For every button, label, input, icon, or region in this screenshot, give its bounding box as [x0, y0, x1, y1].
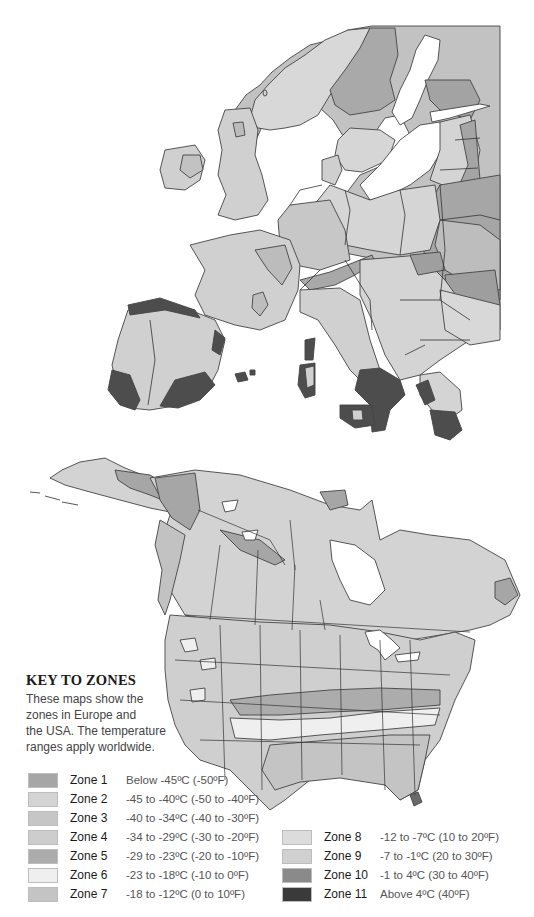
zone-range: -12 to -7ºC (10 to 20ºF) — [380, 831, 499, 843]
greece-south-dark — [430, 410, 462, 440]
zone-name: Zone 3 — [70, 811, 122, 825]
alaska-interior-dark — [115, 470, 190, 508]
great-slave-lake — [222, 500, 238, 512]
newfoundland — [495, 578, 518, 605]
balearic-islands — [235, 370, 255, 382]
key-title: KEY TO ZONES — [26, 672, 236, 689]
prairie-dark-band — [220, 530, 285, 565]
zone-range: -7 to -1ºC (20 to 30ºF) — [380, 850, 493, 862]
faroe-island — [263, 90, 267, 96]
usa-zone5-band — [230, 688, 440, 715]
legend-zone-5: Zone 5 -29 to -23ºC (-20 to -10ºF) — [28, 847, 259, 865]
zone-range: -34 to -29ºC (-30 to -20ºF) — [126, 831, 259, 843]
denmark — [322, 155, 342, 185]
key-desc-line: These maps show the — [26, 691, 236, 707]
alaska — [50, 458, 195, 520]
legend-zone-9: Zone 9 -7 to -1ºC (20 to 30ºF) — [282, 847, 493, 865]
zone-range: -18 to -12ºC (0 to 10ºF) — [126, 888, 245, 900]
zone-1-swatch — [28, 773, 58, 788]
zone-name: Zone 2 — [70, 792, 122, 806]
legend-zone-4: Zone 4 -34 to -29ºC (-30 to -20ºF) — [28, 828, 259, 846]
zone-name: Zone 8 — [324, 830, 376, 844]
canada — [150, 470, 520, 640]
zone-range: -23 to -18ºC (-10 to 0ºF) — [126, 869, 249, 881]
legend-zone-8: Zone 8 -12 to -7ºC (10 to 20ºF) — [282, 828, 499, 846]
zone-11-swatch — [282, 887, 312, 902]
zone-7-swatch — [28, 887, 58, 902]
florida-south-dark — [410, 792, 422, 806]
key-description: These maps show the zones in Europe and … — [26, 691, 236, 755]
zone-range: Above 4ºC (40ºF) — [380, 888, 470, 900]
zone-name: Zone 4 — [70, 830, 122, 844]
zone-name: Zone 11 — [324, 887, 376, 901]
zone-3-swatch — [28, 811, 58, 826]
legend-zone-6: Zone 6 -23 to -18ºC (-10 to 0ºF) — [28, 866, 249, 884]
bc-coast — [155, 520, 185, 615]
legend-zone-11: Zone 11 Above 4ºC (40ºF) — [282, 885, 470, 903]
great-bear-lake — [242, 530, 258, 540]
legend-zone-10: Zone 10 -1 to 4ºC (30 to 40ºF) — [282, 866, 489, 884]
zone-8-swatch — [282, 830, 312, 845]
zone-name: Zone 1 — [70, 773, 122, 787]
key-to-zones: KEY TO ZONES These maps show the zones i… — [26, 672, 236, 755]
europe-hardiness-map — [0, 0, 534, 460]
zone-6-swatch — [28, 868, 58, 883]
zone-5-swatch — [28, 849, 58, 864]
usa-southern-zone — [262, 735, 430, 800]
zone-name: Zone 5 — [70, 849, 122, 863]
usa-zone6-band — [230, 708, 440, 740]
legend-zone-1: Zone 1 Below -45ºC (-50ºF) — [28, 771, 228, 789]
legend-zone-3: Zone 3 -40 to -34ºC (-40 to -30ºF) — [28, 809, 259, 827]
zone-range: -40 to -34ºC (-40 to -30ºF) — [126, 812, 259, 824]
baffin-dark — [320, 490, 348, 510]
zone-range: Below -45ºC (-50ºF) — [126, 774, 228, 786]
aleutians — [30, 492, 78, 505]
zone-name: Zone 10 — [324, 868, 376, 882]
zone-4-swatch — [28, 830, 58, 845]
legend-zone-7: Zone 7 -18 to -12ºC (0 to 10ºF) — [28, 885, 245, 903]
zone-10-swatch — [282, 868, 312, 883]
zone-name: Zone 6 — [70, 868, 122, 882]
zone-range: -1 to 4ºC (30 to 40ºF) — [380, 869, 489, 881]
key-desc-line: ranges apply worldwide. — [26, 739, 236, 755]
great-lakes — [365, 630, 420, 662]
yukon-dark-zone — [155, 473, 200, 530]
zone-range: -29 to -23ºC (-20 to -10ºF) — [126, 850, 259, 862]
key-desc-line: zones in Europe and — [26, 707, 236, 723]
zone-2-swatch — [28, 792, 58, 807]
zone-name: Zone 9 — [324, 849, 376, 863]
zone-9-swatch — [282, 849, 312, 864]
key-desc-line: the USA. The temperature — [26, 723, 236, 739]
zone-range: -45 to -40ºC (-50 to -40ºF) — [126, 793, 259, 805]
corsica — [305, 338, 315, 360]
hudson-bay — [330, 540, 385, 605]
sardinia-inner — [305, 366, 314, 388]
legend-zone-2: Zone 2 -45 to -40ºC (-50 to -40ºF) — [28, 790, 259, 808]
zone-name: Zone 7 — [70, 887, 122, 901]
sicily-inner — [352, 410, 363, 420]
